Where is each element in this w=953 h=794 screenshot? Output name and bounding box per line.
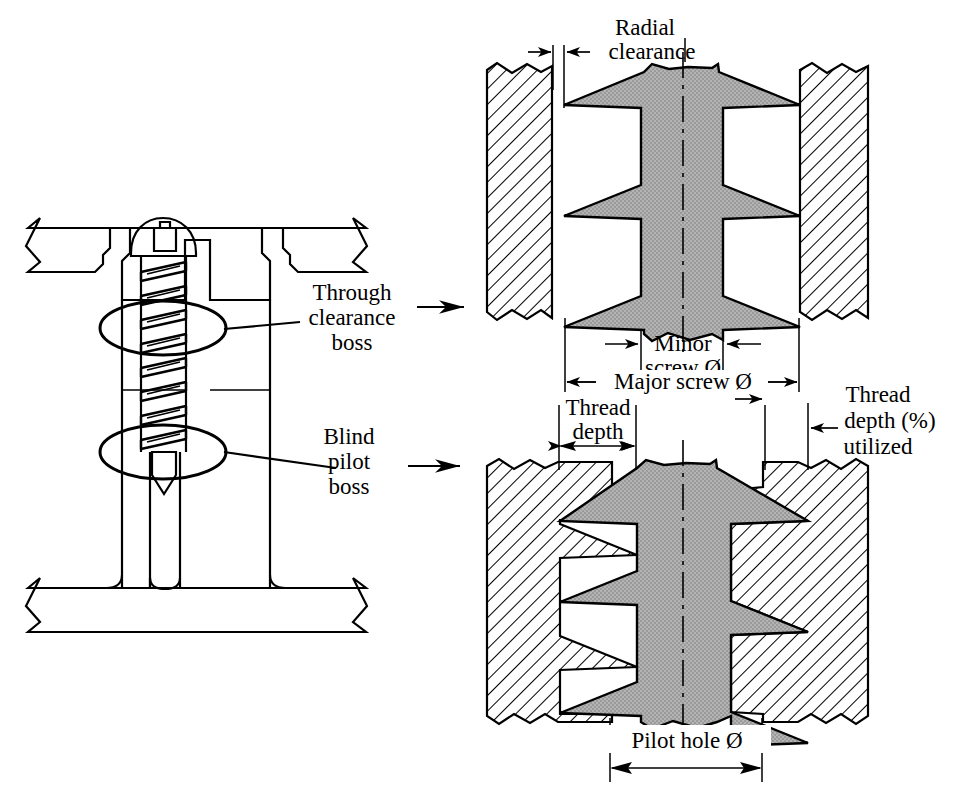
callout-blind-line-3: boss: [329, 474, 370, 499]
utilized-line-1: Thread: [845, 382, 911, 407]
detail-through-clearance: Radial clearance Minor screw Ø Major scr…: [487, 15, 868, 394]
radial-clearance-line-1: Radial: [615, 15, 675, 40]
leader-through-clearance: [224, 322, 300, 329]
callout-through-line-3: boss: [332, 330, 373, 355]
thread-depth-line-1: Thread: [565, 395, 631, 420]
detail-blind-pilot: Thread depth Thread depth (%) utilized P…: [487, 382, 936, 782]
callout-through-line-2: clearance: [309, 305, 396, 330]
assembly-cross-section: [26, 218, 464, 632]
detail-top-left-wall: [487, 63, 552, 320]
minor-screw-dia-line-1: Minor: [654, 331, 712, 356]
utilized-line-2: depth (%): [844, 408, 935, 433]
utilized-line-3: utilized: [844, 434, 913, 459]
major-screw-dia-label: Major screw Ø: [614, 369, 752, 394]
screw-tip: [152, 452, 176, 494]
leader-blind-pilot: [224, 452, 336, 468]
boss-fillet-left: [106, 575, 122, 588]
detail-top-screw-body: [564, 64, 800, 341]
detail-top-right-wall: [800, 63, 868, 320]
radial-clearance-line-2: clearance: [609, 39, 696, 64]
screw-head-recess: [154, 222, 176, 251]
technical-figure: Through clearance boss Blind pilot boss …: [0, 0, 953, 794]
callout-through-clearance-boss: Through clearance boss: [309, 280, 396, 355]
thread-depth-line-2: depth: [572, 419, 624, 444]
boss-fillet-right: [270, 575, 286, 588]
callout-through-line-1: Through: [312, 280, 392, 305]
pilot-hole-dia-label: Pilot hole Ø: [631, 728, 742, 753]
callout-blind-line-1: Blind: [323, 424, 375, 449]
figure-root: Through clearance boss Blind pilot boss …: [0, 0, 953, 794]
callout-blind-line-2: pilot: [328, 449, 371, 474]
callout-blind-pilot-boss: Blind pilot boss: [323, 424, 375, 499]
bottom-plate-outline: [26, 578, 367, 632]
